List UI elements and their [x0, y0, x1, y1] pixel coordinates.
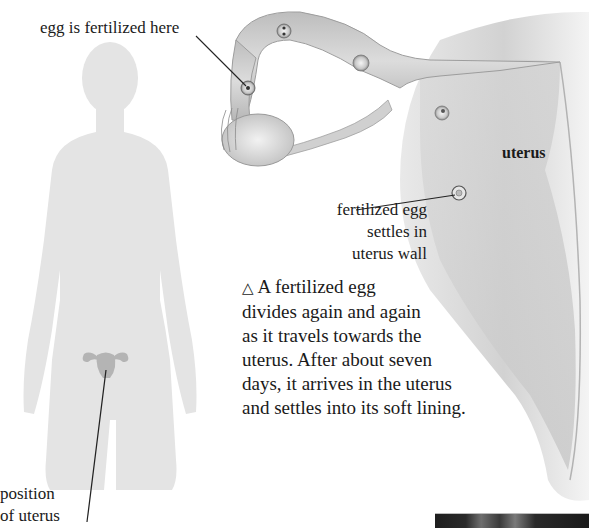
caption-line-1: △A fertilized egg — [242, 275, 542, 300]
caption-line-4: uterus. After about seven — [242, 348, 542, 372]
label-settles-line1: fertilized egg — [337, 199, 427, 221]
egg-implanted — [452, 186, 466, 200]
label-position-line2: of uterus — [0, 505, 60, 527]
body-silhouette — [24, 42, 197, 490]
label-settles-line3: uterus wall — [337, 243, 427, 265]
label-position-of-uterus: position of uterus — [0, 483, 60, 527]
label-settles-line2: settles in — [337, 221, 427, 243]
caption-line-3: as it travels towards the — [242, 324, 542, 348]
caption-text-1: A fertilized egg — [258, 276, 376, 297]
label-position-line1: position — [0, 483, 60, 505]
caption-line-2: divides again and again — [242, 300, 542, 324]
egg-morula — [353, 55, 369, 71]
caption-line-5: days, it arrives in the uterus — [242, 372, 542, 396]
caption: △A fertilized egg divides again and agai… — [242, 275, 542, 420]
egg-two-cell — [277, 24, 291, 38]
label-fertilized-egg-settles: fertilized egg settles in uterus wall — [337, 199, 427, 265]
uterus-illustration — [400, 12, 589, 501]
photo-thumbnail-edge — [435, 513, 589, 528]
caption-line-6: and settles into its soft lining. — [242, 396, 542, 420]
ovary — [222, 114, 294, 166]
triangle-up-icon: △ — [242, 279, 254, 297]
label-uterus: uterus — [502, 143, 546, 163]
label-egg-fertilized-here: egg is fertilized here — [40, 18, 179, 38]
egg-blastocyst — [435, 106, 449, 120]
